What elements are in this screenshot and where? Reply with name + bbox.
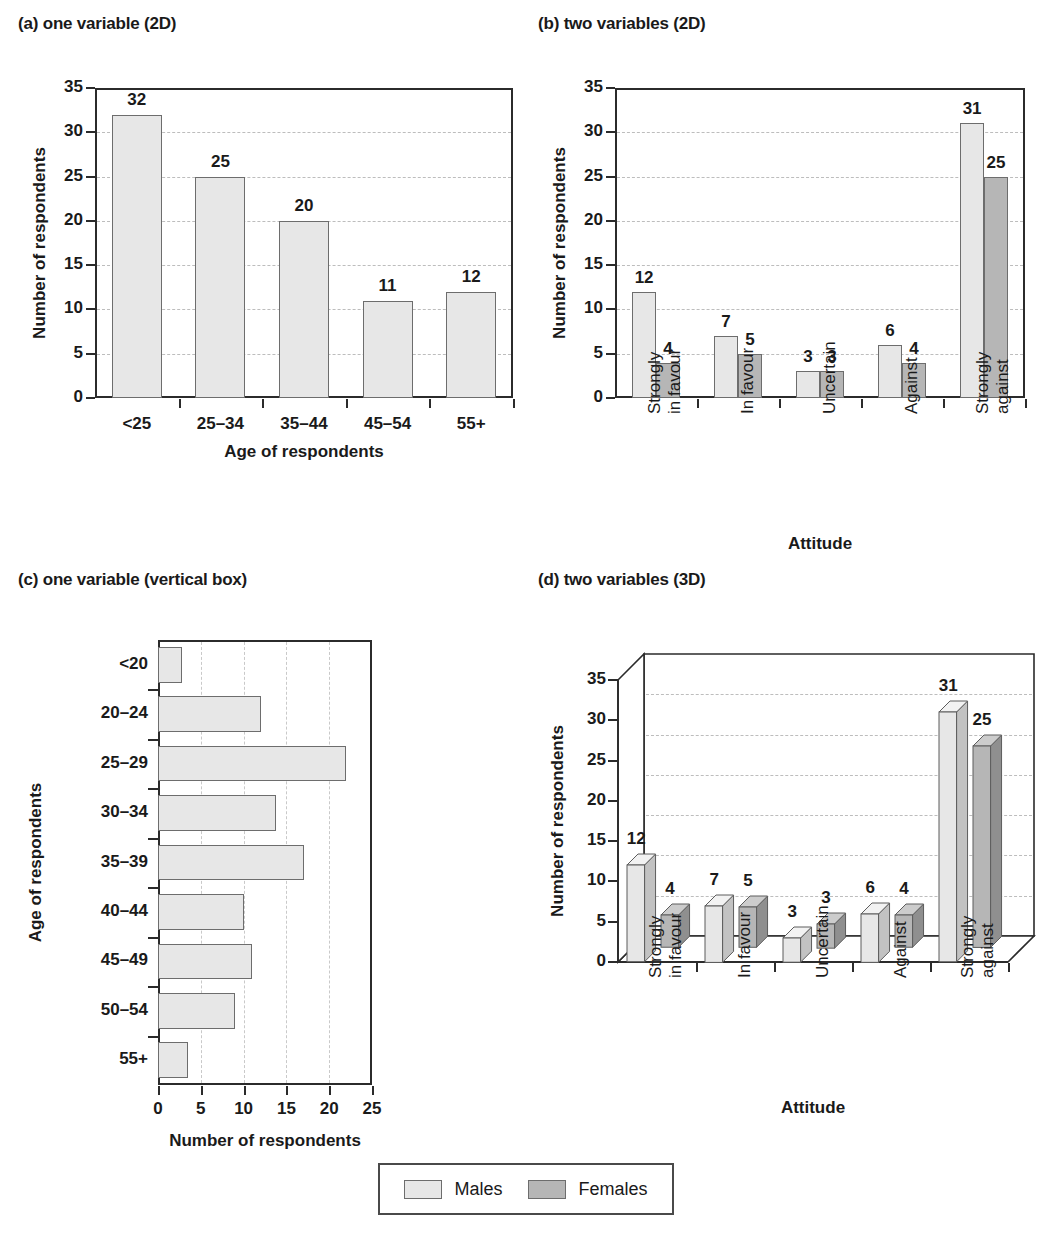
panel-chart-a: (a) one variable (2D) 0510152025303532<2… xyxy=(18,14,528,484)
bar xyxy=(158,647,182,683)
y-tickmark xyxy=(148,986,158,988)
y-tickmark xyxy=(606,220,615,222)
y-tickmark xyxy=(608,679,618,681)
x-tick-label: 55+ xyxy=(429,414,513,434)
y-axis-title: Number of respondents xyxy=(550,88,570,398)
y-tickmark xyxy=(148,1036,158,1038)
x-axis-title: Age of respondents xyxy=(95,442,513,462)
bar xyxy=(158,696,261,732)
x-tick-label: 10 xyxy=(220,1099,268,1119)
panel-chart-b: (b) two variables (2D) 05101520253035124… xyxy=(538,14,1048,544)
y-tickmark xyxy=(148,689,158,691)
y-tickmark xyxy=(86,220,95,222)
bar xyxy=(158,944,252,980)
x-tick-label-rotated: Uncertain xyxy=(813,905,833,978)
x-tick-label-rotated: Against xyxy=(902,357,922,414)
x-tick-label: 15 xyxy=(262,1099,310,1119)
bar-value-label: 7 xyxy=(689,870,739,890)
bar-value-label: 12 xyxy=(618,268,670,288)
x-tickmark xyxy=(158,1086,160,1095)
y-tickmark xyxy=(608,719,618,721)
x-tickmark xyxy=(697,399,699,408)
legend-swatch-females xyxy=(528,1180,566,1199)
y-tick-label: 55+ xyxy=(34,1049,148,1069)
x-tickmark xyxy=(201,1086,203,1095)
y-tickmark xyxy=(606,87,615,89)
y-tickmark xyxy=(606,353,615,355)
x-tickmark xyxy=(861,399,863,408)
x-tickmark xyxy=(513,399,515,408)
x-tick-label: 5 xyxy=(177,1099,225,1119)
x-tick-label: 45–54 xyxy=(346,414,430,434)
bar-value-label: 12 xyxy=(611,829,661,849)
bar-3d xyxy=(861,903,893,965)
bar xyxy=(796,371,820,398)
y-tick-label: 45–49 xyxy=(34,950,148,970)
bar xyxy=(158,746,346,782)
bar-value-label: 20 xyxy=(257,196,351,216)
x-tickmark xyxy=(1008,963,1010,972)
y-tickmark xyxy=(608,880,618,882)
x-tick-label-line: Strongly xyxy=(958,916,978,978)
panel-chart-d: (d) two variables (3D) 05101520253035253… xyxy=(538,570,1048,1130)
y-axis-title: Number of respondents xyxy=(548,680,568,962)
x-tick-label-rotated: Stronglyin favour xyxy=(646,913,686,978)
bar-value-label: 4 xyxy=(888,339,940,359)
bar-value-label: 32 xyxy=(90,90,184,110)
x-tickmark xyxy=(372,1086,374,1095)
y-tick-label: 40–44 xyxy=(34,901,148,921)
y-tick-label: 20–24 xyxy=(34,703,148,723)
chart-legend: MalesFemales xyxy=(378,1163,674,1215)
x-tickmark xyxy=(179,399,181,408)
bar xyxy=(112,115,162,398)
x-tickmark xyxy=(943,399,945,408)
x-tick-label-line: against xyxy=(978,916,998,978)
x-tick-label-line: against xyxy=(993,352,1013,414)
legend-label: Males xyxy=(454,1179,502,1200)
bar xyxy=(158,1042,188,1078)
x-tick-label-line: in favour xyxy=(666,913,686,978)
x-tick-label-line: in favour xyxy=(665,349,685,414)
y-tickmark xyxy=(608,760,618,762)
x-tick-label-line: Uncertain xyxy=(820,341,840,414)
bar-3d-faces xyxy=(705,895,739,967)
bar-value-label: 31 xyxy=(946,99,998,119)
bar-3d-faces xyxy=(861,903,895,967)
y-tickmark xyxy=(608,800,618,802)
x-tickmark xyxy=(779,399,781,408)
x-axis-title: Attitude xyxy=(615,534,1025,554)
y-tickmark xyxy=(608,921,618,923)
y-tickmark xyxy=(606,264,615,266)
x-tick-label-line: Strongly xyxy=(973,352,993,414)
x-tickmark xyxy=(930,963,932,972)
chart-d-plot: 051015202530352531Stronglyagainst46Again… xyxy=(538,570,1048,1130)
x-tick-label-rotated: In favour xyxy=(735,912,755,978)
bar-value-label: 12 xyxy=(424,267,518,287)
x-tick-label: 25 xyxy=(348,1099,396,1119)
x-tick-label-rotated: Stronglyagainst xyxy=(973,352,1013,414)
gridline-vertical xyxy=(329,642,330,1083)
y-tick-label: 35–39 xyxy=(34,852,148,872)
y-tick-label: 30–34 xyxy=(34,802,148,822)
x-tickmark xyxy=(262,399,264,408)
bar xyxy=(279,221,329,398)
legend-label: Females xyxy=(578,1179,647,1200)
legend-item: Males xyxy=(404,1179,502,1200)
bar xyxy=(195,177,245,398)
bar-3d xyxy=(783,927,815,965)
x-tick-label-rotated: Uncertain xyxy=(820,341,840,414)
y-axis-title: Age of respondents xyxy=(26,640,46,1085)
legend-item: Females xyxy=(528,1179,647,1200)
y-tickmark xyxy=(86,308,95,310)
x-tick-label-line: Strongly xyxy=(646,913,666,978)
gridline-horizontal xyxy=(646,694,1032,695)
bar xyxy=(158,993,235,1029)
x-tickmark xyxy=(1025,399,1027,408)
x-tick-label-rotated: Stronglyin favour xyxy=(645,349,685,414)
chart-a-plot: 0510152025303532<252525–342035–441145–54… xyxy=(18,14,528,484)
x-tickmark xyxy=(286,1086,288,1095)
x-tickmark xyxy=(244,1086,246,1095)
x-tick-label-line: In favour xyxy=(738,348,758,414)
bar-3d xyxy=(705,895,737,965)
bar-value-label: 11 xyxy=(341,276,435,296)
